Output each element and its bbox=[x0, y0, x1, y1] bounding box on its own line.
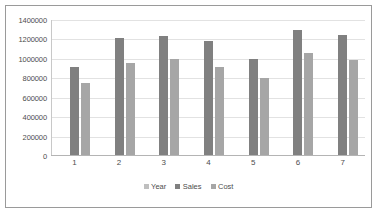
bar-cost[interactable] bbox=[349, 60, 358, 156]
bar-sales[interactable] bbox=[115, 38, 124, 157]
bar-group bbox=[320, 20, 365, 156]
bar-group bbox=[97, 20, 142, 156]
x-axis: 1234567 bbox=[52, 158, 365, 172]
x-axis-tick-label: 2 bbox=[97, 158, 142, 172]
legend-swatch-icon bbox=[175, 184, 180, 189]
legend-label: Year bbox=[151, 182, 166, 191]
bar-sales[interactable] bbox=[70, 67, 79, 156]
bar-sales[interactable] bbox=[338, 35, 347, 156]
bar-group bbox=[141, 20, 186, 156]
legend-swatch-icon bbox=[144, 184, 149, 189]
bars-layer bbox=[52, 20, 365, 156]
bar-cost[interactable] bbox=[126, 63, 135, 156]
bar-group bbox=[231, 20, 276, 156]
y-axis-tick-label: 1200000 bbox=[19, 35, 48, 44]
y-axis-tick-label: 400000 bbox=[23, 113, 47, 122]
x-axis-tick-label: 7 bbox=[320, 158, 365, 172]
y-axis-tick-label: 200000 bbox=[23, 132, 47, 141]
bar-group bbox=[186, 20, 231, 156]
legend-label: Sales bbox=[183, 182, 202, 191]
legend-item-cost[interactable]: Cost bbox=[211, 182, 234, 191]
y-axis-tick-label: 0 bbox=[43, 152, 47, 161]
x-axis-tick-label: 1 bbox=[52, 158, 97, 172]
y-axis: 0200000400000600000800000100000012000001… bbox=[6, 20, 50, 156]
x-axis-tick-label: 5 bbox=[231, 158, 276, 172]
bar-group bbox=[276, 20, 321, 156]
bar-cost[interactable] bbox=[215, 67, 224, 156]
bar-cost[interactable] bbox=[170, 59, 179, 156]
x-axis-tick-label: 3 bbox=[141, 158, 186, 172]
y-axis-tick-label: 800000 bbox=[23, 74, 47, 83]
x-axis-line bbox=[51, 155, 365, 156]
bar-cost[interactable] bbox=[260, 78, 269, 156]
bar-sales[interactable] bbox=[293, 30, 302, 156]
y-axis-tick-label: 1400000 bbox=[19, 16, 48, 25]
x-axis-tick-label: 6 bbox=[276, 158, 321, 172]
legend-swatch-icon bbox=[211, 184, 216, 189]
y-axis-tick-label: 600000 bbox=[23, 93, 47, 102]
chart-legend: YearSalesCost bbox=[6, 182, 371, 191]
y-axis-tick-label: 1000000 bbox=[19, 54, 48, 63]
chart-plot-wrapper: 0200000400000600000800000100000012000001… bbox=[6, 6, 371, 207]
legend-item-year[interactable]: Year bbox=[144, 182, 167, 191]
plot-area bbox=[52, 20, 365, 156]
bar-sales[interactable] bbox=[204, 41, 213, 156]
bar-cost[interactable] bbox=[81, 83, 90, 156]
x-axis-tick-label: 4 bbox=[186, 158, 231, 172]
chart-frame: 0200000400000600000800000100000012000001… bbox=[5, 5, 372, 208]
bar-group bbox=[52, 20, 97, 156]
bar-sales[interactable] bbox=[159, 36, 168, 156]
legend-label: Cost bbox=[218, 182, 233, 191]
legend-item-sales[interactable]: Sales bbox=[175, 182, 201, 191]
bar-cost[interactable] bbox=[304, 53, 313, 156]
bar-sales[interactable] bbox=[249, 59, 258, 156]
